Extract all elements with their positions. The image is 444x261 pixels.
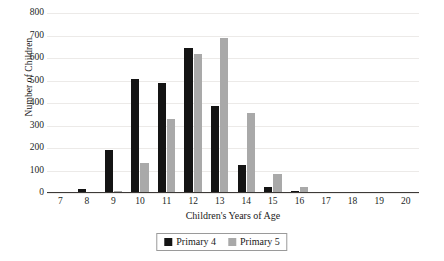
bar-chart: Number of Children 010020030040050060070… (0, 0, 444, 261)
x-tick-label: 19 (366, 196, 393, 207)
x-tick-label: 16 (286, 196, 313, 207)
x-tick-label: 8 (74, 196, 101, 207)
y-tick-label: 600 (0, 53, 44, 63)
bar (184, 48, 192, 193)
bar-group (286, 13, 313, 193)
bar-group (127, 13, 154, 193)
bar (131, 79, 139, 193)
x-tick-label: 14 (233, 196, 260, 207)
legend-label: Primary 5 (240, 236, 280, 247)
legend-swatch-icon (164, 238, 172, 246)
y-tick-label: 400 (0, 98, 44, 108)
bar (167, 119, 175, 193)
x-tick-label: 10 (127, 196, 154, 207)
legend-label: Primary 4 (176, 236, 216, 247)
bar-group (206, 13, 233, 193)
y-tick-label: 800 (0, 8, 44, 18)
x-tick-label: 18 (339, 196, 366, 207)
x-tick-label: 7 (47, 196, 74, 207)
bar (194, 54, 202, 194)
bar-group (180, 13, 207, 193)
bar-group (313, 13, 340, 193)
bar (105, 150, 113, 193)
y-tick-label: 200 (0, 143, 44, 153)
x-tick-label: 20 (392, 196, 419, 207)
x-tick-label: 17 (313, 196, 340, 207)
x-tick-label: 13 (206, 196, 233, 207)
bar (273, 174, 281, 193)
bar-group (392, 13, 419, 193)
bar (211, 106, 219, 193)
bar-group (233, 13, 260, 193)
bar (220, 38, 228, 193)
x-tick-label: 9 (100, 196, 127, 207)
y-tick-label: 300 (0, 121, 44, 131)
legend-entry: Primary 5 (228, 236, 280, 247)
chart-legend: Primary 4Primary 5 (156, 233, 287, 251)
bar-group (366, 13, 393, 193)
legend-entry: Primary 4 (164, 236, 216, 247)
bar-group (153, 13, 180, 193)
y-tick-label: 500 (0, 76, 44, 86)
bar (140, 163, 148, 193)
bar (247, 113, 255, 193)
bar-group (47, 13, 74, 193)
plot-area (47, 13, 419, 193)
x-tick-label: 11 (153, 196, 180, 207)
legend-swatch-icon (228, 238, 236, 246)
x-axis-line (47, 192, 419, 193)
bar-group (100, 13, 127, 193)
y-tick-label: 100 (0, 166, 44, 176)
bar (158, 83, 166, 193)
bar-group (339, 13, 366, 193)
y-tick-label: 700 (0, 31, 44, 41)
x-tick-label: 12 (180, 196, 207, 207)
x-axis-title: Children's Years of Age (47, 210, 419, 221)
bar-group (260, 13, 287, 193)
x-tick-label: 15 (260, 196, 287, 207)
y-tick-label: 0 (0, 188, 44, 198)
bar-group (74, 13, 101, 193)
y-axis-tick-labels: 0100200300400500600700800 (0, 0, 44, 200)
bar (238, 165, 246, 193)
